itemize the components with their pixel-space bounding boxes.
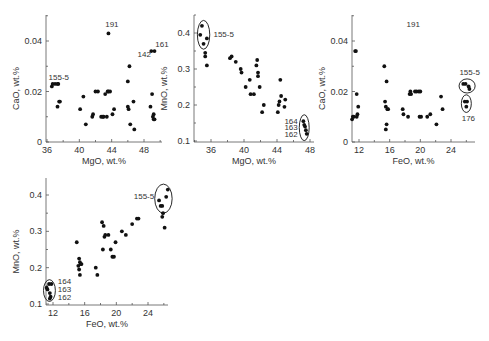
data-point <box>383 100 387 104</box>
data-point <box>278 100 282 104</box>
x-tick-label: 36 <box>206 145 216 155</box>
data-point <box>249 92 253 96</box>
data-point <box>149 105 153 109</box>
data-point <box>354 49 358 53</box>
sample-annotation: 155-5 <box>213 30 234 39</box>
data-point <box>127 107 131 111</box>
data-point <box>157 199 161 203</box>
x-tick-label: 48 <box>139 145 149 155</box>
y-tick-label: 0.02 <box>330 87 348 97</box>
x-axis-label: FeO, wt.% <box>392 156 434 166</box>
data-point <box>240 71 244 75</box>
y-tick-label: 0.02 <box>24 87 42 97</box>
data-point <box>401 107 405 111</box>
data-point <box>128 64 132 68</box>
axis-lines <box>352 15 475 142</box>
y-tick-label: 0 <box>343 137 348 147</box>
data-point <box>77 257 81 261</box>
x-tick-label: 36 <box>42 145 52 155</box>
data-point <box>428 112 432 116</box>
data-point <box>164 195 168 199</box>
x-tick-label: 40 <box>74 145 84 155</box>
data-point <box>465 100 469 104</box>
data-point <box>102 115 106 119</box>
data-point <box>46 288 50 292</box>
data-point <box>385 80 389 84</box>
data-point <box>48 297 52 301</box>
y-tick-label: 0.2 <box>29 263 42 273</box>
chart-mno-vs-mgo: 364044480.10.20.30.4MgO, wt.%MnO, wt.%15… <box>159 15 315 166</box>
data-point <box>77 268 81 272</box>
sample-annotation: 162 <box>58 293 72 302</box>
y-tick-label: 0 <box>37 137 42 147</box>
data-point <box>114 240 118 244</box>
data-point <box>128 122 132 126</box>
data-point <box>419 115 423 119</box>
data-point <box>205 64 209 68</box>
data-point <box>283 98 287 102</box>
sample-annotation: 142 <box>138 50 152 59</box>
y-tick-label: 0.04 <box>330 36 348 46</box>
x-tick-label: 44 <box>272 145 282 155</box>
x-tick-label: 24 <box>446 145 456 155</box>
data-point <box>254 64 258 68</box>
data-point <box>468 87 472 91</box>
data-point <box>124 233 128 237</box>
data-point <box>279 94 283 98</box>
data-point <box>384 127 388 131</box>
x-axis-label: MgO, wt.% <box>232 156 276 166</box>
data-point <box>276 110 280 114</box>
data-point <box>439 95 443 99</box>
data-point <box>355 115 359 119</box>
data-point <box>356 105 360 109</box>
data-point <box>303 125 307 129</box>
group-ellipse <box>155 184 172 213</box>
figure-canvas: 3640444800.020.04MgO, wt.%CaO, wt.%155-5… <box>0 0 489 341</box>
data-point <box>302 119 306 123</box>
data-point <box>150 92 154 96</box>
data-point <box>406 115 410 119</box>
data-point <box>126 80 130 84</box>
x-axis-label: FeO, wt.% <box>86 319 128 329</box>
chart-cao-vs-mgo: 3640444800.020.04MgO, wt.%CaO, wt.%155-5… <box>11 15 169 166</box>
y-tick-label: 0.04 <box>24 36 42 46</box>
data-point <box>198 33 202 37</box>
x-tick-label: 48 <box>305 145 315 155</box>
data-point <box>111 112 115 116</box>
chart-cao-vs-feo: 1216202400.020.04FeO, wt.%CaO, wt.%19115… <box>317 15 480 166</box>
data-point <box>78 273 82 277</box>
group-ellipse <box>461 95 471 113</box>
data-point <box>94 266 98 270</box>
data-point <box>50 282 54 286</box>
data-point <box>95 273 99 277</box>
data-point <box>409 92 413 96</box>
data-point <box>256 74 260 78</box>
data-point <box>101 248 105 252</box>
data-point <box>256 71 260 75</box>
chart-mno-vs-feo: 121620240.10.20.30.4FeO, wt.%MnO, wt.%15… <box>11 178 172 329</box>
data-point <box>166 188 170 192</box>
data-point <box>96 90 100 94</box>
x-tick-label: 24 <box>143 308 153 318</box>
sample-annotation: 191 <box>407 20 421 29</box>
x-tick-label: 16 <box>385 145 395 155</box>
data-point <box>107 233 111 237</box>
data-point <box>56 82 60 86</box>
data-point <box>418 90 422 94</box>
data-point <box>441 107 445 111</box>
data-point <box>100 220 104 224</box>
data-point <box>258 85 262 89</box>
data-point <box>107 32 111 36</box>
y-tick-label: 0.4 <box>29 190 42 200</box>
data-point <box>78 107 82 111</box>
data-point <box>84 122 88 126</box>
data-point <box>262 103 266 107</box>
y-tick-label: 0.2 <box>177 100 190 110</box>
data-point <box>48 291 52 295</box>
y-tick-label: 0.3 <box>29 226 42 236</box>
data-point <box>160 204 164 208</box>
x-tick-label: 40 <box>239 145 249 155</box>
data-point <box>75 240 79 244</box>
sample-annotation: 162 <box>284 130 298 139</box>
data-point <box>109 248 113 252</box>
